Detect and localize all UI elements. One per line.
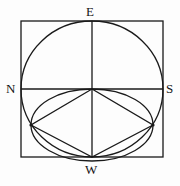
label-west: W — [85, 163, 98, 176]
label-north: N — [6, 82, 16, 95]
left-node-marker — [29, 123, 32, 126]
right-node-marker — [151, 123, 154, 126]
figure-container: E N S W — [0, 0, 180, 186]
label-south: S — [166, 82, 174, 95]
geometric-diagram — [0, 0, 180, 186]
label-east: E — [86, 5, 94, 18]
